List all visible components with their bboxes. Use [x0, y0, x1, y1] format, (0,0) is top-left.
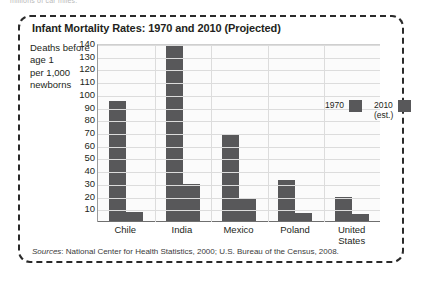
bar-india-2010 — [183, 184, 200, 222]
gridline-horizontal — [98, 147, 380, 148]
y-tick-label: 20 — [84, 192, 95, 202]
chart-legend: 1970 2010 (est.) — [325, 100, 411, 120]
legend-label-2010-line-2: (est.) — [374, 111, 393, 121]
y-tick-label: 70 — [84, 128, 95, 138]
x-tick-label-united-states: UnitedStates — [323, 224, 380, 246]
legend-item-1970: 1970 — [325, 100, 362, 112]
gridline-horizontal — [98, 185, 380, 186]
bar-chile-1970 — [109, 101, 126, 222]
plot-area-wrapper: 102030405060708090100110120130140 1970 2… — [97, 44, 380, 222]
y-tick-label: 100 — [79, 90, 95, 100]
gridline-horizontal — [98, 210, 380, 211]
chart-title: Infant Mortality Rates: 1970 and 2010 (P… — [32, 22, 281, 34]
gridline-vertical — [324, 45, 325, 222]
bar-united-states-1970 — [335, 197, 352, 222]
x-tick-label-line: United — [323, 224, 380, 235]
x-tick-label-chile: Chile — [97, 224, 154, 246]
gridline-horizontal — [98, 134, 380, 135]
x-axis-labels: ChileIndiaMexicoPolandUnitedStates — [97, 224, 380, 246]
gridline-horizontal — [98, 172, 380, 173]
legend-swatch-2010 — [398, 100, 411, 112]
y-tick-label: 60 — [84, 141, 95, 151]
x-tick-label-line: Chile — [97, 224, 154, 235]
legend-item-2010: 2010 (est.) — [374, 100, 411, 120]
x-tick-label-poland: Poland — [267, 224, 324, 246]
x-tick-label-line: India — [154, 224, 211, 235]
x-tick-label-line: Poland — [267, 224, 324, 235]
gridline-horizontal — [98, 198, 380, 199]
legend-label-1970-line-1: 1970 — [325, 101, 344, 111]
source-note: Sources: National Center for Health Stat… — [32, 247, 339, 257]
y-tick-label: 30 — [84, 179, 95, 189]
gridline-horizontal — [98, 83, 380, 84]
x-axis-line — [98, 221, 380, 222]
y-axis-ticks: 102030405060708090100110120130140 — [71, 44, 95, 222]
y-tick-label: 120 — [79, 65, 95, 75]
chart-page: millions of car miles. Infant Mortality … — [0, 0, 426, 281]
gridline-horizontal — [98, 45, 380, 46]
legend-label-2010: 2010 (est.) — [374, 100, 393, 120]
gridline-horizontal — [98, 159, 380, 160]
gridline-vertical — [211, 45, 212, 222]
gridline-horizontal — [98, 96, 380, 97]
y-tick-label: 10 — [84, 205, 95, 215]
source-prefix: Sources — [32, 247, 61, 256]
x-tick-label-line: Mexico — [210, 224, 267, 235]
legend-label-1970: 1970 — [325, 100, 344, 111]
x-tick-label-india: India — [154, 224, 211, 246]
y-tick-label: 50 — [84, 154, 95, 164]
gridline-horizontal — [98, 58, 380, 59]
y-tick-label: 90 — [84, 103, 95, 113]
bar-poland-1970 — [278, 180, 295, 222]
y-tick-label: 110 — [80, 77, 95, 87]
x-tick-label-line: States — [323, 235, 380, 246]
gridline-horizontal — [98, 70, 380, 71]
y-tick-label: 80 — [84, 116, 95, 126]
x-tick-label-mexico: Mexico — [210, 224, 267, 246]
gridline-vertical — [155, 45, 156, 222]
y-tick-label: 140 — [79, 39, 95, 49]
y-tick-label: 130 — [79, 52, 95, 62]
source-text: : National Center for Health Statistics,… — [61, 247, 338, 256]
legend-swatch-1970 — [349, 100, 362, 112]
clipped-page-text: millions of car miles. — [10, 0, 77, 4]
gridline-vertical — [268, 45, 269, 222]
gridline-horizontal — [98, 121, 380, 122]
y-tick-label: 40 — [84, 166, 95, 176]
plot-area — [97, 44, 380, 222]
